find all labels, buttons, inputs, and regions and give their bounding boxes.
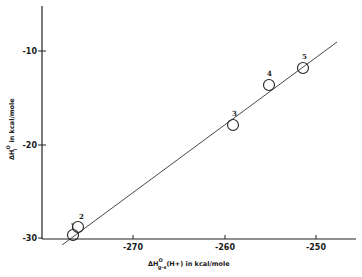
svg-text:ΔHOiin kcal/mole: ΔHOiin kcal/mole — [5, 98, 18, 160]
point-label-3: 3 — [232, 109, 237, 118]
data-point-4 — [264, 80, 275, 91]
x-ticks: -270 -260 -250 — [123, 235, 326, 252]
svg-text:ΔHOg-s(H+) in kcal/mole: ΔHOg-s(H+) in kcal/mole — [148, 257, 230, 271]
x-axis-label: ΔHOg-s(H+) in kcal/mole — [148, 257, 230, 271]
data-point-5 — [298, 63, 309, 74]
chart-canvas: -10 -20 -30 -270 -260 -250 2 3 4 5 ΔHOg-… — [0, 0, 362, 277]
fit-line — [62, 42, 337, 245]
point-label-5: 5 — [302, 52, 307, 61]
x-tick-label: -270 — [123, 243, 143, 252]
point-label-4: 4 — [267, 69, 272, 78]
x-tick-label: -250 — [306, 243, 326, 252]
y-tick-label: -10 — [23, 47, 38, 56]
point-label-2: 2 — [79, 212, 84, 221]
y-tick-label: -20 — [23, 141, 38, 150]
data-point-3 — [228, 120, 239, 131]
y-tick-label: -30 — [23, 234, 38, 243]
y-axis-label: ΔHOiin kcal/mole — [5, 98, 18, 160]
data-point-2 — [73, 222, 84, 233]
x-tick-label: -260 — [215, 243, 235, 252]
